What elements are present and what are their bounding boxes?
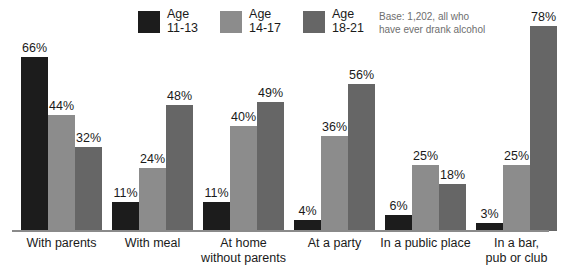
x-axis-label-line: without parents (174, 251, 314, 266)
bar-value-label: 11% (113, 186, 137, 201)
bar[interactable]: 49% (257, 102, 284, 231)
bar[interactable]: 24% (139, 168, 166, 231)
bar-value-label: 18% (440, 168, 465, 183)
bar[interactable]: 40% (230, 126, 257, 231)
bar[interactable]: 18% (439, 184, 466, 231)
bar-value-label: 78% (531, 10, 556, 25)
bar-group: 4%36%56% (294, 0, 375, 231)
x-axis-line (12, 230, 549, 232)
bar-value-label: 11% (204, 186, 228, 201)
bar-chart: Age 11-13 Age 14-17 Age 18-21 Base: 1,20… (0, 0, 561, 273)
x-axis-label-line: pub or club (447, 251, 561, 266)
bar-value-label: 44% (49, 99, 74, 114)
bar-group: 66%44%32% (21, 0, 102, 231)
bar-value-label: 48% (167, 89, 192, 104)
bar[interactable]: 6% (385, 215, 412, 231)
bar-value-label: 36% (322, 120, 347, 135)
bar-group: 6%25%18% (385, 0, 466, 231)
bar-value-label: 3% (480, 207, 498, 222)
bar[interactable]: 32% (75, 147, 102, 231)
bar[interactable]: 56% (348, 84, 375, 231)
bar-value-label: 25% (504, 149, 529, 164)
bar[interactable]: 11% (203, 202, 230, 231)
bar[interactable]: 36% (321, 136, 348, 231)
bar-value-label: 32% (76, 131, 101, 146)
bar-value-label: 25% (413, 149, 438, 164)
bar-group: 11%24%48% (112, 0, 193, 231)
bar-value-label: 49% (258, 86, 283, 101)
bar[interactable]: 25% (503, 165, 530, 231)
bar-group: 11%40%49% (203, 0, 284, 231)
x-axis-label-line: In a bar, (447, 236, 561, 251)
bar-value-label: 4% (298, 204, 316, 219)
bar-value-label: 56% (349, 68, 374, 83)
bar-value-label: 6% (389, 199, 407, 214)
bar[interactable]: 66% (21, 57, 48, 231)
bar-group: 3%25%78% (476, 0, 557, 231)
bar-value-label: 40% (231, 110, 256, 125)
bar[interactable]: 11% (112, 202, 139, 231)
bar[interactable]: 25% (412, 165, 439, 231)
bar[interactable]: 44% (48, 115, 75, 231)
bar-value-label: 24% (140, 152, 165, 167)
plot-area: 66%44%32%11%24%48%11%40%49%4%36%56%6%25%… (0, 0, 561, 231)
bar[interactable]: 78% (530, 26, 557, 231)
bar-value-label: 66% (22, 41, 47, 56)
x-axis-label: In a bar,pub or club (447, 236, 561, 265)
bar[interactable]: 48% (166, 105, 193, 231)
